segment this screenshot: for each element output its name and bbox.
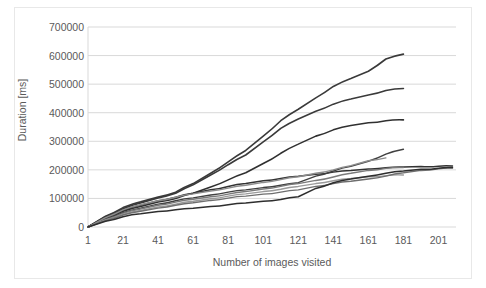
y-tick-label: 0 — [26, 222, 84, 232]
data-line-session-8 — [88, 175, 403, 227]
y-tick-label: 300000 — [26, 136, 84, 146]
y-tick-label: 700000 — [26, 22, 84, 32]
data-line-session-7 — [88, 167, 403, 227]
x-tick-label: 141 — [313, 234, 353, 246]
x-axis-title: Number of images visited — [88, 256, 456, 268]
x-tick-label: 101 — [243, 234, 283, 246]
data-line-session-1 — [88, 54, 403, 227]
y-axis-title: Duration [ms] — [16, 60, 28, 160]
x-tick-label: 1 — [68, 234, 108, 246]
x-tick-label: 21 — [103, 234, 143, 246]
x-tick-label: 81 — [208, 234, 248, 246]
y-tick-label: 400000 — [26, 108, 84, 118]
data-line-session-9 — [88, 168, 453, 227]
x-tick-label: 161 — [348, 234, 388, 246]
x-tick-label: 41 — [138, 234, 178, 246]
x-tick-label: 121 — [278, 234, 318, 246]
y-tick-label: 500000 — [26, 79, 84, 89]
data-line-session-5 — [88, 149, 403, 227]
x-tick-label: 181 — [383, 234, 423, 246]
y-tick-label: 100000 — [26, 193, 84, 203]
y-tick-label: 600000 — [26, 51, 84, 61]
data-line-session-10 — [88, 167, 453, 227]
x-tick-label: 201 — [418, 234, 458, 246]
x-tick-label: 61 — [173, 234, 213, 246]
x-axis-tick-labels: 121416181101121141161181201 — [0, 234, 486, 254]
y-tick-label: 200000 — [26, 165, 84, 175]
